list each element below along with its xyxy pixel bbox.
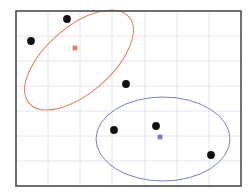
- figure-canvas: [0, 0, 252, 196]
- plot-background: [16, 11, 241, 186]
- scatter-plot: [0, 0, 252, 196]
- data-point: [63, 15, 71, 23]
- data-point: [122, 80, 130, 88]
- data-point: [152, 122, 160, 130]
- data-point: [207, 151, 215, 159]
- centroid-marker-cluster-1: [73, 46, 78, 51]
- centroid-marker-cluster-2: [158, 135, 163, 140]
- data-point: [27, 37, 35, 45]
- data-point: [110, 126, 118, 134]
